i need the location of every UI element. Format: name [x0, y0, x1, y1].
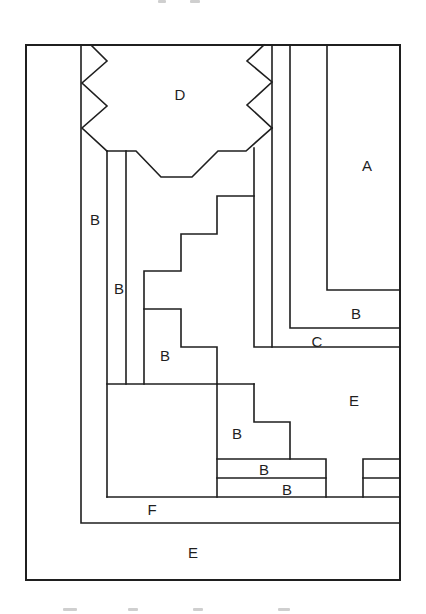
- inner-left-border: [81, 45, 400, 523]
- d-bottom-edge: [107, 128, 272, 177]
- bottom-caption-cropped: [0, 604, 426, 614]
- e-step: [254, 384, 290, 459]
- b-lower-staircase: [144, 309, 217, 384]
- d-left-zigzag: [82, 45, 107, 151]
- label-b-inner-strip: B: [114, 280, 124, 297]
- b-upper-right-outline: [290, 45, 400, 328]
- label-e-right: E: [349, 392, 359, 409]
- label-b-left-strip: B: [90, 211, 100, 228]
- label-b-stair: B: [160, 347, 170, 364]
- caption-glyph-fragment: [63, 608, 77, 611]
- label-d: D: [175, 86, 186, 103]
- label-a: A: [362, 157, 372, 174]
- region-labels: DABBBCBEBBBFE: [90, 86, 372, 561]
- label-b-lower-stair: B: [232, 425, 242, 442]
- label-c: C: [312, 333, 323, 350]
- label-b-upper-right: B: [351, 305, 361, 322]
- region-boundaries: [81, 45, 400, 523]
- label-f: F: [147, 501, 156, 518]
- d-right-zigzag: [247, 45, 272, 128]
- label-b-strip-upper: B: [259, 461, 269, 478]
- label-e-bottom: E: [188, 544, 198, 561]
- caption-glyph-fragment: [278, 608, 290, 611]
- caption-glyph-fragment: [128, 608, 138, 611]
- label-b-strip-lower: B: [282, 481, 292, 498]
- caption-glyph-fragment: [193, 608, 203, 611]
- outer-frame: [26, 45, 400, 580]
